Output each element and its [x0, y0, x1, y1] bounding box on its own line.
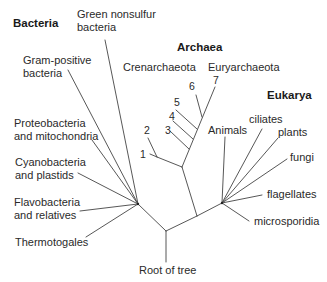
label-microsporidia: microsporidia — [254, 215, 319, 228]
archaea-number-4: 4 — [169, 110, 175, 122]
label-animals: Animals — [208, 124, 247, 137]
archaea-number-3: 3 — [165, 124, 171, 136]
label-euryarchaeota: Euryarchaeota — [208, 61, 280, 74]
label-cyanobacteria: Cyanobacteria and plastids — [15, 156, 86, 182]
label-proteobacteria: Proteobacteria and mitochondria — [14, 117, 98, 143]
label-flagellates: flagellates — [267, 188, 317, 201]
archaea-number-7: 7 — [213, 74, 219, 86]
phylogenetic-tree-diagram: Bacteria Archaea Eukarya Green nonsulfur… — [0, 0, 327, 282]
domain-label-bacteria: Bacteria — [13, 17, 58, 29]
archaea-number-1: 1 — [140, 148, 146, 160]
label-flavobacteria: Flavobacteria and relatives — [14, 196, 80, 222]
label-ciliates: ciliates — [249, 113, 283, 126]
label-plants: plants — [278, 126, 307, 139]
label-root-of-tree: Root of tree — [139, 264, 196, 277]
label-thermotogales: Thermotogales — [15, 236, 88, 249]
label-crenarchaeota: Crenarchaeota — [123, 61, 196, 74]
label-fungi: fungi — [290, 151, 314, 164]
archaea-number-6: 6 — [189, 80, 195, 92]
archaea-number-2: 2 — [144, 124, 150, 136]
domain-label-archaea: Archaea — [177, 41, 222, 53]
label-green-nonsulfur-bacteria: Green nonsulfur bacteria — [77, 8, 156, 34]
label-gram-positive-bacteria: Gram-positive bacteria — [23, 54, 91, 80]
domain-label-eukarya: Eukarya — [267, 89, 312, 101]
archaea-number-5: 5 — [174, 96, 180, 108]
